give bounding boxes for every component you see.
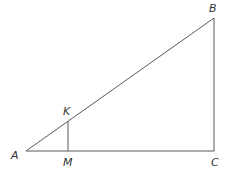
label-b: B bbox=[209, 2, 217, 15]
label-c: C bbox=[211, 156, 219, 169]
label-m: M bbox=[63, 156, 73, 169]
label-k: K bbox=[63, 105, 71, 118]
segment-ab bbox=[26, 18, 214, 151]
label-a: A bbox=[10, 149, 19, 162]
triangle-diagram: A B C K M bbox=[0, 0, 230, 175]
